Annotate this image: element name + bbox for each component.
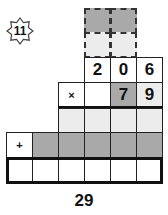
- multiply-operator: ×: [58, 82, 85, 108]
- multiplier-digit: 7: [110, 82, 137, 108]
- partial-product-2-cell[interactable]: [136, 132, 163, 158]
- multiplier-empty-cell: [84, 82, 111, 108]
- partial-product-2-cell[interactable]: [110, 132, 137, 158]
- partial-product-1-cell[interactable]: [136, 108, 163, 133]
- multiplicand-digit: 6: [136, 57, 163, 83]
- partial-product-2-cell[interactable]: [84, 132, 111, 158]
- multiplicand-digit: 0: [110, 57, 137, 83]
- multiplier-digit: 9: [136, 82, 163, 108]
- carry-cell-1b[interactable]: [84, 32, 111, 58]
- plus-operator: +: [6, 132, 33, 158]
- multiplicand-digit: 2: [84, 57, 111, 83]
- result-label: 29: [0, 191, 168, 211]
- answer-row-frame: [6, 157, 163, 184]
- partial-product-2-cell[interactable]: [32, 132, 59, 158]
- partial-product-2-cell[interactable]: [58, 132, 85, 158]
- carry-cell-2a[interactable]: [110, 8, 137, 34]
- puzzle-number-badge: 11: [6, 17, 34, 45]
- puzzle-number: 11: [6, 17, 34, 45]
- partial-product-1-cell[interactable]: [58, 108, 85, 133]
- partial-product-1-cell[interactable]: [84, 108, 111, 133]
- carry-cell-2b[interactable]: [110, 32, 137, 58]
- carry-cell-1a[interactable]: [84, 8, 111, 34]
- partial-product-1-cell[interactable]: [110, 108, 137, 133]
